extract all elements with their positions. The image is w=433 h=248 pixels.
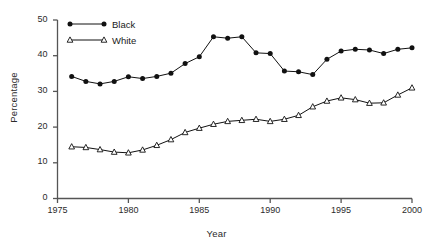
- y-axis-ticks: [53, 20, 58, 199]
- data-series-layer: [69, 34, 415, 155]
- data-point-black: [310, 72, 315, 77]
- data-point-black: [197, 54, 202, 59]
- data-point-black: [225, 36, 230, 41]
- data-point-white: [296, 112, 302, 117]
- y-tick-label: 10: [22, 156, 48, 166]
- data-point-black: [395, 47, 400, 52]
- legend-markers: [67, 22, 107, 43]
- y-tick-label: 0: [22, 192, 48, 202]
- x-tick-label: 1985: [179, 205, 219, 215]
- data-point-white: [409, 85, 415, 90]
- data-point-white: [168, 136, 174, 141]
- data-point-black: [140, 76, 145, 81]
- data-point-white: [69, 144, 75, 149]
- data-point-black: [296, 69, 301, 74]
- axis-lines: [57, 20, 412, 199]
- y-tick-label: 30: [22, 85, 48, 95]
- data-point-black: [69, 74, 74, 79]
- y-tick-label: 50: [22, 14, 48, 24]
- legend-label-black: Black: [112, 19, 135, 30]
- data-point-black: [254, 50, 259, 55]
- data-point-black: [268, 51, 273, 56]
- x-tick-label: 1990: [250, 205, 290, 215]
- data-point-black: [83, 79, 88, 84]
- data-point-black: [183, 61, 188, 66]
- data-point-black: [154, 74, 159, 79]
- data-point-white: [253, 116, 259, 121]
- data-point-black: [239, 34, 244, 39]
- data-point-black: [324, 57, 329, 62]
- x-tick-label: 1995: [321, 205, 361, 215]
- data-point-black: [126, 74, 131, 79]
- y-tick-label: 40: [22, 49, 48, 59]
- data-point-black: [339, 49, 344, 54]
- data-point-black: [410, 45, 415, 50]
- data-point-black: [211, 34, 216, 39]
- data-point-black: [381, 51, 386, 56]
- x-axis-title: Year: [0, 228, 433, 239]
- x-tick-label: 1975: [38, 205, 78, 215]
- x-tick-label: 2000: [392, 205, 432, 215]
- data-point-white: [338, 95, 344, 100]
- line-chart: Percentage Year 010203040501975198019851…: [0, 0, 433, 248]
- data-point-black: [367, 47, 372, 52]
- data-point-black: [353, 47, 358, 52]
- data-point-black: [112, 79, 117, 84]
- y-axis-title: Percentage: [8, 63, 19, 133]
- data-point-black: [282, 69, 287, 74]
- x-tick-label: 1980: [108, 205, 148, 215]
- x-axis-ticks: [58, 199, 413, 204]
- data-point-white: [395, 92, 401, 97]
- legend-marker: [102, 22, 107, 27]
- data-point-black: [168, 71, 173, 76]
- legend-marker: [68, 22, 73, 27]
- data-point-black: [98, 81, 103, 86]
- y-tick-label: 20: [22, 121, 48, 131]
- legend-label-white: White: [112, 35, 136, 46]
